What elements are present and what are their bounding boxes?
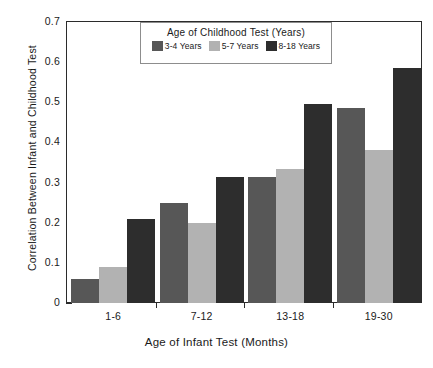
bar-13-18-8-18-years	[304, 104, 332, 303]
legend-swatch-icon	[152, 41, 163, 51]
legend-label: 8-18 Years	[279, 41, 321, 51]
bar-series-layer	[67, 22, 421, 303]
legend-entry-5-7-years: 5-7 Years	[209, 41, 259, 51]
y-tick-label: 0	[26, 296, 60, 308]
y-tick-label: 0.1	[26, 256, 60, 268]
bar-7-12-3-4-years	[160, 203, 188, 303]
y-tick-label: 0.4	[26, 135, 60, 147]
y-tick-label: 0.6	[26, 55, 60, 67]
bar-1-6-5-7-years	[99, 267, 127, 303]
legend-label: 3-4 Years	[165, 41, 202, 51]
x-tick-label-7-12: 7-12	[157, 310, 247, 322]
x-tick-label-19-30: 19-30	[334, 310, 424, 322]
x-tick-label-1-6: 1-6	[68, 310, 158, 322]
legend-entry-3-4-years: 3-4 Years	[152, 41, 202, 51]
y-tick-mark	[66, 303, 72, 304]
legend-swatch-icon	[209, 41, 220, 51]
bar-7-12-8-18-years	[216, 177, 244, 303]
x-tick-mark	[333, 303, 334, 308]
bar-13-18-5-7-years	[276, 169, 304, 303]
bar-13-18-3-4-years	[248, 177, 276, 303]
bar-1-6-3-4-years	[71, 279, 99, 303]
x-tick-label-13-18: 13-18	[245, 310, 335, 322]
x-tick-mark	[244, 303, 245, 308]
bar-1-6-8-18-years	[127, 219, 155, 303]
legend-title: Age of Childhood Test (Years)	[141, 27, 331, 38]
bar-19-30-5-7-years	[365, 150, 393, 303]
y-tick-label: 0.5	[26, 95, 60, 107]
chart-figure: Correlation Between Infant and Childhood…	[0, 0, 433, 368]
legend-swatch-icon	[266, 41, 277, 51]
y-tick-label: 0.3	[26, 176, 60, 188]
bar-19-30-8-18-years	[393, 68, 421, 303]
bar-19-30-3-4-years	[337, 108, 365, 303]
legend-entry-8-18-years: 8-18 Years	[266, 41, 321, 51]
x-tick-mark	[156, 303, 157, 308]
y-tick-label: 0.2	[26, 216, 60, 228]
legend-label: 5-7 Years	[222, 41, 259, 51]
bar-7-12-5-7-years	[188, 223, 216, 303]
legend-box: Age of Childhood Test (Years) 3-4 Years5…	[140, 22, 332, 64]
y-tick-label: 0.7	[26, 15, 60, 27]
x-axis-title: Age of Infant Test (Months)	[0, 336, 433, 348]
legend-entries: 3-4 Years5-7 Years8-18 Years	[141, 41, 331, 51]
